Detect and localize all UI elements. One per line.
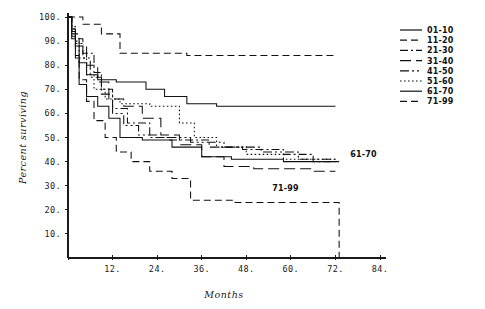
x-axis-group: 12.24.36.48.60.72.84. xyxy=(68,255,388,274)
y-tick-label: 70. xyxy=(44,84,61,94)
chart-canvas: 10.20.30.40.50.60.70.80.90.100. 12.24.36… xyxy=(0,0,485,309)
y-tick-label: 100. xyxy=(39,12,61,22)
legend-label-11-20: 11-20 xyxy=(427,36,454,45)
x-tick-label: 12. xyxy=(104,264,121,274)
x-tick-label: 24. xyxy=(149,264,166,274)
x-tick-label: 72. xyxy=(327,264,344,274)
legend-label-71-99: 71-99 xyxy=(427,97,454,106)
legend-label-01-10: 01-10 xyxy=(427,26,454,35)
survival-chart: 10.20.30.40.50.60.70.80.90.100. 12.24.36… xyxy=(0,0,485,309)
x-axis-title: Months xyxy=(203,289,243,300)
y-tick-label: 60. xyxy=(44,108,61,118)
x-tick-label: 36. xyxy=(193,264,210,274)
legend-label-31-40: 31-40 xyxy=(427,57,454,66)
x-tick-label: 84. xyxy=(372,264,389,274)
y-tick-label: 10. xyxy=(44,229,61,239)
series-curves xyxy=(68,17,339,258)
y-axis-title: Percent surviving xyxy=(17,91,28,185)
series-line-11-20 xyxy=(68,17,335,56)
y-tick-label: 50. xyxy=(44,133,61,143)
y-tick-label: 30. xyxy=(44,181,61,191)
legend-label-41-50: 41-50 xyxy=(427,67,454,76)
series-line-61-70 xyxy=(68,17,335,106)
legend-label-21-30: 21-30 xyxy=(427,46,454,55)
x-tick-label: 60. xyxy=(283,264,300,274)
y-axis-ticks: 10.20.30.40.50.60.70.80.90.100. xyxy=(39,12,69,239)
curve-annotation-71-99: 71-99 xyxy=(272,184,299,193)
y-tick-label: 90. xyxy=(44,36,61,46)
series-line-21-30 xyxy=(68,17,335,162)
legend-label-51-60: 51-60 xyxy=(427,77,454,86)
legend-label-61-70: 61-70 xyxy=(427,87,454,96)
y-tick-label: 20. xyxy=(44,205,61,215)
x-tick-label: 48. xyxy=(238,264,255,274)
curve-annotation-61-70: 61-70 xyxy=(350,150,377,159)
legend: 01-1011-2021-3031-4041-5051-6061-7071-99 xyxy=(400,26,454,106)
y-tick-label: 40. xyxy=(44,157,61,167)
y-tick-label: 80. xyxy=(44,60,61,70)
y-axis-group: 10.20.30.40.50.60.70.80.90.100. xyxy=(39,12,69,258)
